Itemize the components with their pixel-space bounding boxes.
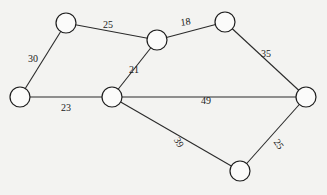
node-b	[147, 30, 167, 50]
edge-weight-label: 30	[28, 53, 38, 64]
edge-weight-label: 21	[129, 64, 139, 75]
node-f	[296, 87, 316, 107]
edge-weight-label: 25	[271, 137, 286, 152]
node-e	[102, 87, 122, 107]
edge-weight-label: 35	[261, 48, 271, 59]
graph-diagram: 253018213523493925	[0, 0, 327, 195]
edge-weight-label: 18	[180, 15, 191, 27]
edge-f-g	[240, 97, 306, 171]
edge-weight-label: 49	[201, 95, 211, 106]
node-a	[56, 13, 76, 33]
node-c	[215, 12, 235, 32]
edge-weight-label: 23	[61, 102, 71, 113]
edge-weight-label: 39	[172, 135, 187, 149]
edge-c-f	[225, 22, 306, 97]
edge-e-g	[112, 97, 240, 171]
node-d	[10, 87, 30, 107]
edge-a-d	[20, 23, 66, 97]
node-g	[230, 161, 250, 181]
edge-weight-label: 25	[103, 19, 113, 30]
